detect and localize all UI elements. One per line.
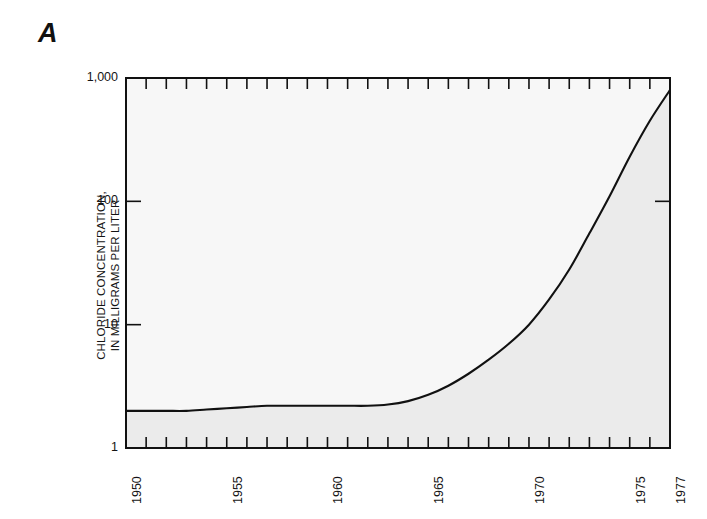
x-tick-label: 1977: [675, 476, 688, 504]
y-tick-label: 10: [60, 318, 118, 331]
x-tick-label: 1955: [232, 476, 245, 504]
x-tick-label: 1950: [131, 476, 144, 504]
x-tick-label: 1965: [433, 476, 446, 504]
y-axis-title-line-2: IN MILLIGRAMS PER LITER: [108, 111, 122, 441]
figure-panel-a: A CHLORIDE CONCENTRATION, IN MILLIGRAMS …: [0, 0, 707, 519]
y-tick-label: 1: [60, 441, 118, 454]
x-tick-label: 1975: [635, 476, 648, 504]
y-tick-label: 100: [60, 194, 118, 207]
y-axis-title-line-1: CHLORIDE CONCENTRATION,: [95, 111, 109, 441]
y-tick-label: 1,000: [60, 71, 118, 84]
x-tick-label: 1960: [332, 476, 345, 504]
panel-label: A: [38, 20, 58, 47]
x-tick-label: 1970: [534, 476, 547, 504]
y-axis-title: CHLORIDE CONCENTRATION, IN MILLIGRAMS PE…: [95, 111, 122, 441]
